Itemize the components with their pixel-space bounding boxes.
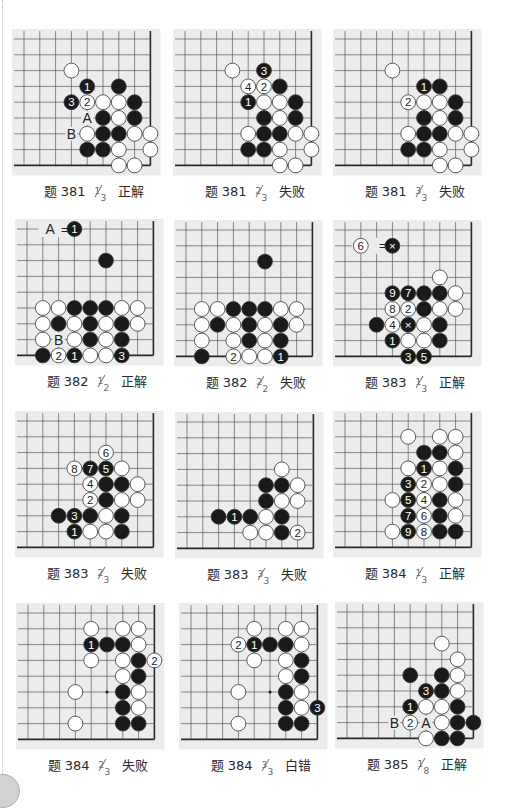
white-stone [448, 508, 463, 523]
white-stone [258, 525, 273, 540]
svg-text:1: 1 [277, 350, 283, 362]
white-stone: 2 [416, 476, 431, 491]
svg-text:1: 1 [420, 462, 426, 474]
white-stone [304, 142, 319, 157]
white-stone [115, 653, 130, 668]
white-stone [464, 126, 479, 141]
black-stone [131, 653, 146, 668]
black-stone [432, 524, 447, 539]
black-stone: 1 [67, 524, 82, 539]
black-stone [416, 285, 431, 300]
result-label: 失败 [122, 757, 148, 775]
black-stone [131, 716, 146, 731]
black-stone [210, 317, 225, 332]
white-stone: 2 [400, 94, 415, 109]
white-stone [131, 621, 146, 636]
problem-number: 题 381 [205, 183, 247, 201]
black-stone [288, 110, 303, 125]
white-stone [242, 525, 257, 540]
white-stone [278, 621, 293, 636]
svg-text:3: 3 [405, 350, 411, 362]
white-stone: 6 [353, 238, 368, 253]
white-stone [258, 509, 273, 524]
problem-number: 题 381 [44, 183, 86, 201]
white-stone [432, 94, 447, 109]
black-stone [256, 126, 271, 141]
white-stone [35, 332, 50, 347]
black-stone: 7 [400, 285, 415, 300]
white-stone [210, 301, 225, 316]
white-stone [278, 668, 293, 683]
black-stone [272, 126, 287, 141]
svg-text:1: 1 [71, 349, 77, 361]
black-stone [82, 316, 97, 331]
black-stone [242, 509, 257, 524]
svg-text:×: × [389, 240, 396, 252]
white-stone: 6 [416, 508, 431, 523]
white-stone [98, 348, 113, 363]
white-stone [400, 461, 415, 476]
black-stone: 3 [400, 476, 415, 491]
svg-text:4: 4 [87, 478, 94, 490]
svg-text:3: 3 [260, 64, 266, 76]
black-stone: 1 [416, 79, 431, 94]
white-stone [432, 270, 447, 285]
problem-panel: 3421题 38123失败 [173, 29, 321, 211]
page-margin-dotted-line [2, 0, 3, 780]
white-stone [450, 683, 465, 698]
white-stone [450, 667, 465, 682]
white-stone [450, 652, 465, 667]
black-stone [434, 731, 449, 746]
white-stone [98, 316, 113, 331]
black-stone [432, 126, 447, 141]
white-stone: 2 [290, 525, 305, 540]
white-stone [98, 508, 113, 523]
problem-caption: 题 38413正解 [365, 565, 475, 583]
result-label: 失败 [439, 183, 465, 201]
black-stone [114, 332, 129, 347]
black-stone: 5 [98, 461, 113, 476]
black-stone [416, 445, 431, 460]
white-stone [290, 477, 305, 492]
black-stone [432, 445, 447, 460]
white-stone [127, 126, 142, 141]
svg-text:2: 2 [84, 96, 90, 108]
result-label: 正解 [441, 756, 467, 774]
point-label: B [54, 331, 63, 347]
problem-caption: 题 38133失败 [365, 183, 475, 201]
white-stone [240, 126, 255, 141]
black-stone [278, 716, 293, 731]
white-stone [98, 524, 113, 539]
black-stone [115, 637, 130, 652]
black-stone [450, 699, 465, 714]
point-label: A [421, 714, 431, 730]
black-stone [273, 317, 288, 332]
white-stone [274, 493, 289, 508]
svg-text:9: 9 [389, 287, 395, 299]
black-stone: 1 [385, 333, 400, 348]
black-stone [211, 509, 226, 524]
black-stone [448, 476, 463, 491]
black-stone [448, 524, 463, 539]
black-stone [278, 684, 293, 699]
black-stone [466, 715, 481, 730]
black-stone [432, 79, 447, 94]
black-stone [432, 492, 447, 507]
point-label: B [66, 125, 75, 141]
black-stone: 1 [273, 349, 288, 364]
white-stone [82, 348, 97, 363]
svg-text:4: 4 [245, 80, 252, 92]
black-stone [288, 94, 303, 109]
black-stone [98, 492, 113, 507]
black-stone [294, 716, 309, 731]
black-stone [432, 508, 447, 523]
black-stone: 1 [227, 509, 242, 524]
black-stone [434, 683, 449, 698]
black-stone [294, 653, 309, 668]
black-stone: × [385, 238, 400, 253]
svg-text:6: 6 [357, 240, 363, 252]
white-stone [400, 429, 415, 444]
problem-caption: 题 38323失败 [47, 565, 157, 583]
black-stone [450, 731, 465, 746]
white-stone [272, 158, 287, 173]
